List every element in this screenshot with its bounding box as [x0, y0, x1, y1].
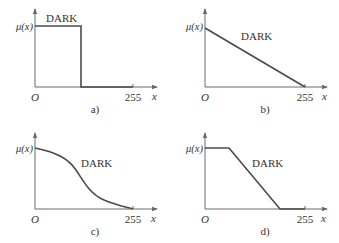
y-axis-label: μ(x)	[15, 143, 33, 155]
x-axis-label: x	[320, 212, 326, 224]
curve-label: DARK	[241, 30, 272, 42]
curve-label: DARK	[252, 157, 283, 169]
panel-caption: a)	[91, 103, 100, 116]
x-tick-label: 255	[297, 91, 314, 103]
panel-c: DARK μ(x) O 255 x c)	[15, 133, 157, 238]
x-tick-label: 255	[297, 213, 314, 225]
origin-label: O	[31, 213, 39, 225]
y-axis-label: μ(x)	[185, 21, 203, 33]
x-axis-label: x	[321, 90, 327, 102]
curve-label: DARK	[81, 157, 112, 169]
panel-caption: d)	[260, 225, 270, 238]
curve-label: DARK	[46, 12, 77, 24]
step-membership-curve	[35, 26, 133, 87]
origin-label: O	[201, 91, 209, 103]
origin-label: O	[201, 213, 209, 225]
x-tick-label: 255	[125, 213, 142, 225]
x-axis-label: x	[150, 212, 156, 224]
panel-caption: b)	[260, 103, 270, 116]
panel-d: DARK μ(x) O 255 x d)	[185, 133, 327, 238]
panel-b: DARK μ(x) O 255 x b)	[185, 9, 327, 116]
membership-functions-figure: DARK μ(x) O 255 x a) DARK μ(x) O 255 x b…	[0, 0, 339, 243]
y-axis-label: μ(x)	[15, 21, 33, 33]
panel-a: DARK μ(x) O 255 x a)	[15, 9, 157, 116]
y-axis-label: μ(x)	[185, 143, 203, 155]
origin-label: O	[31, 91, 39, 103]
x-axis-label: x	[151, 90, 157, 102]
panel-caption: c)	[91, 225, 100, 238]
x-tick-label: 255	[125, 91, 142, 103]
